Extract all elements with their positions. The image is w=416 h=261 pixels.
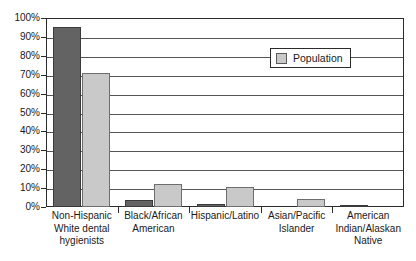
y-axis-tick-label: 40% xyxy=(20,126,40,136)
population-vs-dental-hygienists-bar-chart: 100%90%80%70%60%50%40%30%20%10%0% Non-Hi… xyxy=(0,0,416,261)
y-axis-tick-label: 70% xyxy=(20,70,40,80)
gridline xyxy=(47,38,403,39)
y-axis-tick-label: 50% xyxy=(20,108,40,118)
y-axis-tick-label: 60% xyxy=(20,89,40,99)
gridline xyxy=(47,170,403,171)
legend-label-population: Population xyxy=(293,53,343,64)
y-axis: 100%90%80%70%60%50%40%30%20%10%0% xyxy=(0,18,40,207)
plot-area xyxy=(46,18,404,207)
x-axis-category-label-line: hygienists xyxy=(38,235,126,248)
y-axis-tick-label: 10% xyxy=(20,183,40,193)
legend-swatch-population-icon xyxy=(276,53,287,64)
gridline xyxy=(47,95,403,96)
y-axis-tick-label: 30% xyxy=(20,145,40,155)
x-axis-category-label: AmericanIndian/AlaskanNative xyxy=(324,210,412,248)
gridline xyxy=(47,76,403,77)
gridline xyxy=(47,151,403,152)
x-axis-category-label-line: Indian/Alaskan xyxy=(324,223,412,236)
x-axis-category-label-line: American xyxy=(324,210,412,223)
y-axis-tick-label: 20% xyxy=(20,164,40,174)
gridline xyxy=(47,132,403,133)
x-axis-category-label-line: Native xyxy=(324,235,412,248)
gridline xyxy=(47,114,403,115)
y-axis-tick-mark xyxy=(41,207,46,208)
gridline xyxy=(47,189,403,190)
x-axis-category-labels: Non-HispanicWhite dentalhygienistsBlack/… xyxy=(46,210,404,260)
y-axis-tick-label: 100% xyxy=(14,13,40,23)
y-axis-tick-label: 90% xyxy=(20,32,40,42)
y-axis-tick-label: 80% xyxy=(20,51,40,61)
x-axis-category-label-line: American xyxy=(110,223,198,236)
chart-legend: Population xyxy=(270,48,351,68)
